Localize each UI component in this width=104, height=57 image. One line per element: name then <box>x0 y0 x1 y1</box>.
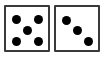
scene-caption: 5 and 3 <box>0 0 1 1</box>
right-die-value: 3 <box>56 7 57 8</box>
left-die: 5 <box>4 5 50 52</box>
left-die-pip-top-left <box>12 15 21 24</box>
right-die: 3 <box>54 5 100 52</box>
left-die-value: 5 <box>6 7 7 8</box>
left-die-pip-bottom-right <box>34 37 43 46</box>
dice-scene: 5 and 3 53 <box>0 0 104 57</box>
right-die-pip-center <box>73 26 82 35</box>
left-die-pip-bottom-left <box>12 37 21 46</box>
left-die-pip-center <box>23 26 32 35</box>
right-die-pip-bottom-right <box>84 37 93 46</box>
left-die-pip-top-right <box>34 15 43 24</box>
right-die-pip-top-left <box>62 16 71 25</box>
